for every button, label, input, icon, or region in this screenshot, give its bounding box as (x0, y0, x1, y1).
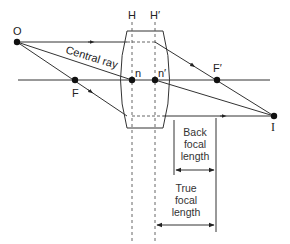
thick-lens-diagram: O F n n′ F′ I H H′ Central ray Back foca… (0, 0, 290, 244)
label-nodal-n-prime: n′ (158, 67, 166, 79)
object-point (14, 39, 20, 45)
true-focal-label-2: focal (175, 194, 197, 206)
label-nodal-n: n (135, 67, 141, 79)
back-focal-label-2: focal (184, 138, 206, 150)
label-front-focus: F (72, 87, 79, 99)
central-ray-out (155, 80, 274, 116)
true-focal-label-3: length (172, 206, 201, 218)
back-focal-label-3: length (181, 150, 210, 162)
ray-arrow (88, 90, 91, 92)
label-h-prime: H′ (150, 9, 160, 21)
back-focal-label-1: Back (183, 126, 207, 138)
image-point (271, 113, 277, 119)
label-h: H (128, 9, 136, 21)
ray-arrow (190, 64, 193, 66)
label-back-focus: F′ (213, 62, 222, 74)
front-focus-point (72, 77, 78, 83)
label-image: I (271, 120, 275, 134)
label-object: O (13, 25, 22, 37)
back-focus-point (214, 77, 220, 83)
true-focal-label-1: True (175, 182, 196, 194)
